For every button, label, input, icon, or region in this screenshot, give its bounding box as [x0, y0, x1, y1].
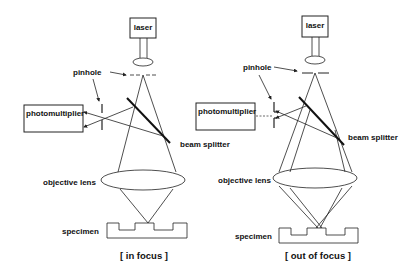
panel-in-focus: laser pinhole beam splitter photomultipl… — [24, 18, 230, 261]
laser-label: laser — [306, 21, 325, 30]
beam-splitter-label: beam splitter — [180, 140, 230, 149]
specimen — [107, 223, 187, 238]
objective-lens — [101, 170, 185, 190]
laser-lens — [133, 58, 153, 66]
specimen-label: specimen — [235, 232, 272, 241]
caption-in-focus: [ in focus ] — [120, 250, 168, 261]
beam-splitter — [299, 97, 344, 145]
caption-out-of-focus: [ out of focus ] — [285, 250, 351, 261]
laser-label: laser — [134, 23, 153, 32]
photomultiplier-label: photomultiplier — [198, 107, 256, 116]
photomultiplier-label: photomultiplier — [26, 109, 84, 118]
beam-splitter — [127, 98, 170, 143]
specimen — [279, 228, 358, 243]
beam-splitter-label: beam splitter — [348, 133, 398, 142]
panel-out-of-focus: laser pinhole beam splitter photomultipl… — [196, 16, 398, 261]
confocal-diagram: laser pinhole beam splitter photomultipl… — [0, 0, 416, 275]
objective-lens — [273, 168, 357, 188]
specimen-label: specimen — [62, 227, 99, 236]
pinhole-label: pinhole — [73, 68, 102, 77]
objective-lens-label: objective lens — [218, 176, 271, 185]
objective-lens-label: objective lens — [43, 178, 96, 187]
pinhole-label: pinhole — [243, 63, 272, 72]
laser-lens — [305, 56, 325, 64]
